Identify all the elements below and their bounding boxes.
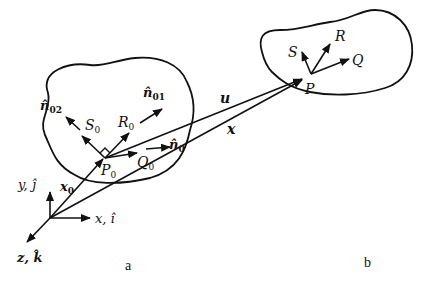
q-arrow [311, 59, 349, 74]
n02-arrow [66, 117, 80, 130]
body-b-outline [261, 10, 413, 95]
n01-label: n̂01 [143, 85, 165, 102]
x-label: x [226, 121, 236, 137]
u-label: u [220, 90, 230, 106]
u-vector [105, 79, 302, 158]
x0-label: x0 [59, 179, 74, 196]
z-axis-arrow [27, 218, 50, 242]
n02-label: n̂02 [40, 98, 62, 115]
coordinate-axes [27, 192, 90, 242]
r-label: R [334, 28, 346, 44]
body-b-frame [302, 44, 349, 74]
s-arrow [302, 52, 311, 74]
y-axis-label: y, ĵ [17, 177, 37, 192]
p0-label: P0 [100, 162, 116, 180]
n01-arrow [140, 109, 162, 123]
caption-a: a [125, 258, 132, 273]
right-angle-marker [100, 148, 110, 153]
q0-label: Q0 [137, 154, 154, 172]
x0-vector [50, 159, 103, 218]
q-label: Q [352, 52, 364, 68]
s0-arrow [82, 136, 105, 158]
z-axis-label: z, k̂ [16, 249, 42, 265]
s-label: S [288, 44, 298, 60]
n0-arrow [146, 147, 170, 149]
caption-b: b [364, 255, 371, 270]
p-label: P [304, 81, 315, 97]
r0-label: R0 [117, 114, 135, 132]
n0-label: n̂0 [169, 137, 185, 154]
x-axis-label: x, î [95, 211, 117, 226]
s0-label: S0 [85, 117, 101, 135]
diagram-canvas: y, ĵ x, î z, k̂ x0 P0 S0 R0 Q0 n̂02 n̂01… [0, 0, 433, 283]
